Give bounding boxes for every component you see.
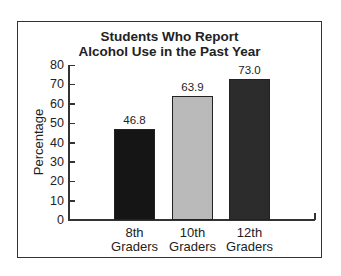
category-label-10th-line-2: Graders — [163, 240, 223, 254]
y-tick-mark — [68, 84, 75, 86]
x-axis-end-tick — [314, 213, 316, 220]
y-tick-label: 40 — [40, 137, 64, 149]
category-label-12th-line-2: Graders — [220, 240, 280, 254]
y-tick-label: 0 — [40, 214, 64, 226]
bar-8th-graders — [114, 129, 155, 220]
category-label-8th-line-1: 8th — [105, 226, 165, 240]
y-tick-mark — [68, 65, 75, 67]
category-label-8th-line-2: Graders — [105, 240, 165, 254]
y-tick-mark — [68, 103, 75, 105]
y-tick-label: 30 — [40, 156, 64, 168]
chart-title: Students Who Report Alcohol Use in the P… — [17, 29, 322, 59]
y-tick-mark — [68, 161, 75, 163]
value-label-8th: 46.8 — [110, 114, 160, 126]
y-tick-label: 60 — [40, 98, 64, 110]
y-tick-mark — [68, 200, 75, 202]
value-label-12th: 73.0 — [225, 64, 275, 76]
category-label-8th: 8th Graders — [105, 226, 165, 254]
category-label-12th: 12th Graders — [220, 226, 280, 254]
y-tick-mark — [68, 181, 75, 183]
y-tick-label: 50 — [40, 117, 64, 129]
bar-12th-graders — [229, 79, 270, 220]
y-tick-mark — [68, 142, 75, 144]
category-label-12th-line-1: 12th — [220, 226, 280, 240]
y-tick-label: 10 — [40, 195, 64, 207]
y-tick-mark — [68, 123, 75, 125]
y-tick-label: 80 — [40, 59, 64, 71]
category-label-10th: 10th Graders — [163, 226, 223, 254]
y-tick-label: 20 — [40, 175, 64, 187]
chart-title-line-2: Alcohol Use in the Past Year — [17, 44, 322, 59]
value-label-10th: 63.9 — [168, 81, 218, 93]
category-label-10th-line-1: 10th — [163, 226, 223, 240]
bar-10th-graders — [172, 96, 213, 220]
chart-title-line-1: Students Who Report — [17, 29, 322, 44]
y-tick-label: 70 — [40, 78, 64, 90]
